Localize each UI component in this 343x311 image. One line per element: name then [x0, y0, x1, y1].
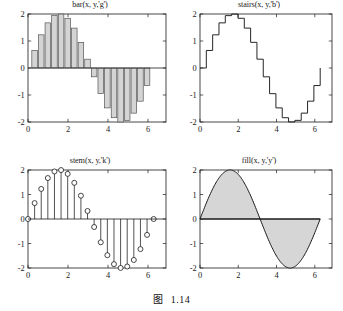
figure-container: bar(x, y,'g') 0246-2-1012 stairs(x, y,'b… [0, 0, 343, 311]
svg-text:0: 0 [198, 125, 202, 134]
caption-number: 1.14 [171, 294, 191, 305]
svg-text:-1: -1 [18, 91, 25, 100]
svg-text:-2: -2 [18, 264, 25, 273]
figure-caption: 图 1.14 [0, 291, 343, 306]
fill-chart-plot: 0246-2-1012 [178, 156, 340, 294]
svg-text:2: 2 [66, 125, 70, 134]
bar-chart-plot: 0246-2-1012 [6, 0, 174, 150]
svg-text:2: 2 [21, 166, 25, 175]
panel-bar: bar(x, y,'g') 0246-2-1012 [6, 0, 174, 150]
svg-text:2: 2 [193, 10, 197, 19]
svg-text:2: 2 [193, 166, 197, 175]
svg-text:-1: -1 [18, 240, 25, 249]
svg-text:6: 6 [313, 271, 317, 280]
svg-text:-2: -2 [190, 118, 197, 127]
svg-text:-2: -2 [190, 264, 197, 273]
svg-text:2: 2 [236, 271, 240, 280]
svg-text:0: 0 [26, 271, 30, 280]
svg-text:4: 4 [106, 125, 111, 134]
svg-text:2: 2 [21, 10, 25, 19]
stairs-chart-plot: 0246-2-1012 [178, 0, 340, 150]
svg-text:4: 4 [106, 271, 111, 280]
panel-stem: stem(x, y,'k') 0246-2-1012 [6, 156, 174, 294]
svg-text:6: 6 [146, 271, 150, 280]
svg-text:6: 6 [313, 125, 317, 134]
svg-text:2: 2 [236, 125, 240, 134]
svg-text:1: 1 [193, 37, 197, 46]
svg-text:0: 0 [193, 215, 197, 224]
svg-text:1: 1 [193, 191, 197, 200]
panel-fill: fill(x, y,'y') 0246-2-1012 [178, 156, 340, 294]
svg-text:1: 1 [21, 191, 25, 200]
svg-text:-2: -2 [18, 118, 25, 127]
svg-text:1: 1 [21, 37, 25, 46]
svg-text:6: 6 [146, 125, 150, 134]
svg-text:-1: -1 [190, 91, 197, 100]
svg-text:0: 0 [198, 271, 202, 280]
svg-text:0: 0 [21, 215, 25, 224]
panel-stairs: stairs(x, y,'b') 0246-2-1012 [178, 0, 340, 150]
svg-text:4: 4 [274, 271, 279, 280]
svg-text:2: 2 [66, 271, 70, 280]
caption-label: 图 [153, 294, 164, 305]
svg-text:-1: -1 [190, 240, 197, 249]
stem-chart-plot: 0246-2-1012 [6, 156, 174, 294]
svg-text:0: 0 [193, 64, 197, 73]
svg-text:0: 0 [21, 64, 25, 73]
svg-text:4: 4 [274, 125, 279, 134]
svg-text:0: 0 [26, 125, 30, 134]
